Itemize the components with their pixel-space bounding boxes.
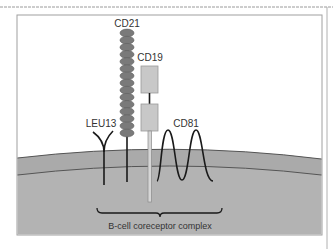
cd81-label: CD81	[173, 118, 199, 129]
cd21-domain	[120, 108, 134, 116]
cd21-domain	[120, 93, 134, 101]
cd21-domain	[120, 122, 134, 130]
cd21-domain	[120, 115, 134, 123]
complex-label: B-cell coreceptor complex	[108, 221, 212, 231]
cd21-domain	[120, 51, 134, 59]
cd21-domain	[120, 29, 134, 37]
cd21-domain	[120, 36, 134, 44]
cd21-label: CD21	[114, 18, 140, 29]
cd21-domain	[120, 129, 134, 137]
cd21-domain	[120, 43, 134, 51]
leu13-label: LEU13	[86, 118, 117, 129]
cd21-domain-stack	[120, 29, 134, 137]
cd19-domain-lower	[141, 104, 158, 131]
cd19-domain-upper	[141, 66, 158, 93]
cd21-domain	[120, 79, 134, 87]
cd21-domain	[120, 72, 134, 80]
coreceptor-diagram: LEU13 CD21 CD19 CD81 B-cell coreceptor c…	[0, 0, 333, 249]
cd21-domain	[120, 58, 134, 66]
cd21-domain	[120, 86, 134, 94]
cd21-domain	[120, 101, 134, 109]
cd21-domain	[120, 65, 134, 73]
cd19-tail	[148, 131, 152, 202]
cd19-label: CD19	[137, 52, 163, 63]
